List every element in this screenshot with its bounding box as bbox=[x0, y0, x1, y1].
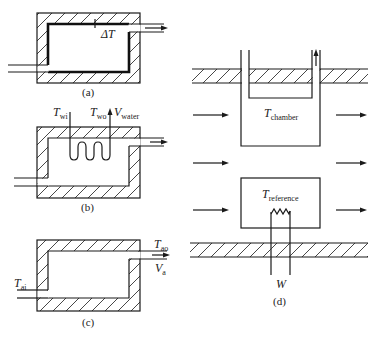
calorimeter-diagram: ΔT (a) Twi Two Vwater (b) bbox=[0, 0, 381, 337]
water-outlet-arrow-icon bbox=[108, 108, 113, 115]
panel-d: Tchamber Treference bbox=[190, 49, 368, 308]
flow-arrow-icon bbox=[336, 161, 367, 166]
t-reference-label: Treference bbox=[262, 187, 299, 203]
inner-liner bbox=[48, 24, 129, 72]
flow-arrow-icon bbox=[193, 161, 229, 166]
t-wi-label: Twi bbox=[53, 105, 68, 121]
power-label: W bbox=[276, 277, 287, 291]
flow-arrow-icon bbox=[336, 208, 367, 213]
inner-wall bbox=[48, 251, 129, 298]
delta-t-label: ΔT bbox=[100, 27, 116, 41]
flow-arrow-icon bbox=[193, 113, 229, 118]
flow-arrow-icon bbox=[336, 113, 367, 118]
t-ao-label: Tao bbox=[154, 237, 168, 253]
t-ai-label: Tai bbox=[14, 276, 27, 292]
outlet-arrow-icon bbox=[152, 253, 170, 258]
outlet-arrow-icon bbox=[145, 26, 168, 31]
caption-a: (a) bbox=[82, 86, 95, 99]
inner-wall bbox=[48, 138, 129, 186]
v-water-label: Vwater bbox=[114, 105, 139, 121]
panel-b: Twi Two Vwater (b) bbox=[14, 105, 168, 214]
top-wall-hatch bbox=[192, 69, 368, 83]
caption-c: (c) bbox=[82, 316, 95, 329]
t-wo-label: Two bbox=[90, 105, 106, 121]
caption-d: (d) bbox=[273, 295, 286, 308]
t-chamber-label: Tchamber bbox=[264, 106, 299, 122]
panel-a: ΔT (a) bbox=[8, 13, 168, 99]
reference-box bbox=[241, 178, 320, 228]
bottom-wall-hatch bbox=[190, 243, 368, 257]
exhaust-arrow-icon bbox=[314, 49, 319, 66]
v-a-label: Va bbox=[155, 261, 166, 277]
panel-c: Tai Tao Va (c) bbox=[14, 237, 170, 329]
caption-b: (b) bbox=[81, 201, 94, 214]
outlet-arrow-icon bbox=[150, 140, 168, 145]
heater-coil-icon bbox=[271, 209, 290, 214]
flow-arrow-icon bbox=[193, 208, 229, 213]
